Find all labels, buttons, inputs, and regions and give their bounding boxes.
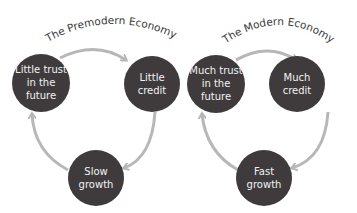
node-much-credit: Much credit	[269, 56, 325, 112]
arrow-growth-to-trust	[202, 114, 238, 170]
arrow-growth-to-trust	[32, 114, 68, 170]
svg-text:in the: in the	[202, 78, 231, 89]
svg-text:Fast: Fast	[254, 166, 274, 177]
node-fast-growth: Fast growth	[236, 150, 292, 206]
modern-title: The Modern Economy	[219, 15, 337, 46]
svg-text:future: future	[26, 90, 56, 101]
svg-text:growth: growth	[247, 179, 282, 190]
arrow-trust-to-credit	[60, 49, 126, 60]
svg-text:in the: in the	[27, 77, 56, 88]
arrow-credit-to-growth	[292, 112, 328, 168]
svg-text:Little: Little	[139, 72, 164, 83]
modern-economy-diagram: The Modern Economy Much trust in the fut…	[187, 15, 337, 206]
svg-text:Slow: Slow	[84, 166, 107, 177]
node-slow-growth: Slow growth	[68, 150, 124, 206]
arrow-credit-to-growth	[124, 112, 155, 168]
node-much-trust: Much trust in the future	[187, 55, 245, 113]
node-little-credit: Little credit	[124, 56, 180, 112]
premodern-title: The Premodern Economy	[43, 14, 179, 44]
svg-text:credit: credit	[283, 85, 312, 96]
svg-text:Little trust: Little trust	[15, 64, 67, 75]
premodern-economy-diagram: The Premodern Economy Little trust in th…	[12, 14, 180, 206]
node-little-trust: Little trust in the future	[12, 54, 70, 112]
svg-text:growth: growth	[79, 179, 114, 190]
svg-text:future: future	[201, 91, 231, 102]
svg-text:credit: credit	[138, 85, 167, 96]
svg-text:Much: Much	[284, 72, 311, 83]
svg-text:Much trust: Much trust	[189, 65, 243, 76]
economy-cycles-diagram: The Premodern Economy Little trust in th…	[0, 0, 357, 213]
